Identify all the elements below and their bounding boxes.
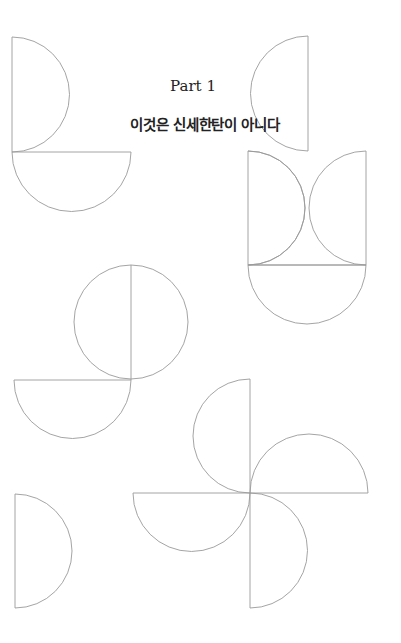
bottom-left-half-disc-right (15, 494, 72, 608)
geometric-decoration (0, 0, 401, 643)
right-box-double-arcs (248, 151, 366, 265)
top-left-half-disc-down (12, 152, 131, 212)
part-label: Part 1 (0, 77, 386, 95)
chapter-title: 이것은 신세한탄이 아니다 (0, 113, 401, 134)
pinwheel (133, 379, 368, 608)
middle-half-disc-down (14, 380, 131, 439)
middle-circle-with-divider (74, 265, 188, 380)
right-half-disc-down (248, 265, 366, 324)
